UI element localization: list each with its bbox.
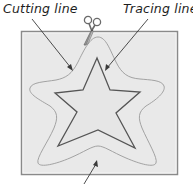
star-cutting-diagram: Cutting line Tracing line <box>0 0 193 187</box>
cutting-line-label: Cutting line <box>3 1 78 16</box>
tracing-line-label: Tracing line <box>123 1 193 16</box>
